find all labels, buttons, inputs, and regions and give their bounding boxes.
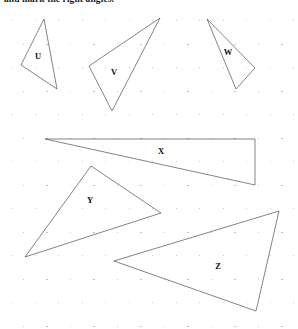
triangle-z: [114, 211, 279, 311]
shapes-layer: [0, 0, 298, 329]
triangle-x: [45, 139, 255, 185]
shape-label-v: V: [111, 67, 117, 77]
triangle-y: [25, 166, 161, 257]
shape-label-y: Y: [87, 195, 93, 205]
triangle-v: [89, 18, 160, 111]
shape-label-x: X: [158, 146, 164, 156]
shape-label-z: Z: [215, 261, 221, 271]
shape-label-w: W: [224, 47, 233, 57]
worksheet-page: and mark the right angles. U V W X Y Z: [0, 0, 298, 329]
shape-label-u: U: [35, 51, 41, 61]
